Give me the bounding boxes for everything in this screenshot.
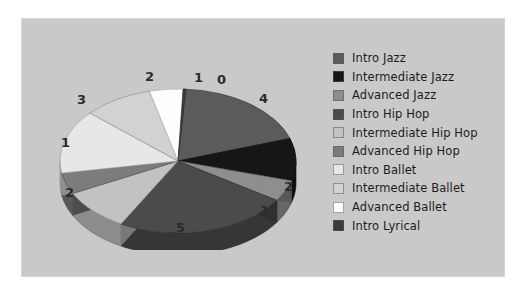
- legend-label: Intro Lyrical: [352, 219, 420, 233]
- legend-swatch-icon: [333, 146, 344, 157]
- legend-label: Advanced Hip Hop: [352, 144, 460, 158]
- pie-data-label: 1: [260, 204, 269, 217]
- pie-data-label: 4: [259, 92, 268, 105]
- legend-label: Advanced Jazz: [352, 88, 436, 102]
- legend-swatch-icon: [333, 71, 344, 82]
- legend-item-intermediate-ballet[interactable]: Intermediate Ballet: [333, 179, 503, 198]
- legend-item-intermediate-jazz[interactable]: Intermediate Jazz: [333, 68, 503, 87]
- legend-swatch-icon: [333, 202, 344, 213]
- pie-data-label: 2: [145, 70, 154, 83]
- legend-swatch-icon: [333, 53, 344, 64]
- pie-data-label: 5: [176, 221, 185, 234]
- legend-item-intro-lyrical[interactable]: Intro Lyrical: [333, 216, 503, 235]
- chart-panel: 0421521321 Intro Jazz Intermediate Jazz …: [21, 18, 505, 277]
- legend-swatch-icon: [333, 164, 344, 175]
- legend-item-advanced-ballet[interactable]: Advanced Ballet: [333, 198, 503, 217]
- legend-item-intro-hip-hop[interactable]: Intro Hip Hop: [333, 105, 503, 124]
- legend-item-advanced-hip-hop[interactable]: Advanced Hip Hop: [333, 142, 503, 161]
- pie-data-label: 2: [65, 186, 74, 199]
- legend-item-intermediate-hip-hop[interactable]: Intermediate Hip Hop: [333, 123, 503, 142]
- legend-swatch-icon: [333, 90, 344, 101]
- legend-item-intro-ballet[interactable]: Intro Ballet: [333, 161, 503, 180]
- pie-data-label: 2: [284, 180, 293, 193]
- pie-data-label: 1: [61, 136, 70, 149]
- legend-swatch-icon: [333, 183, 344, 194]
- legend-label: Intermediate Jazz: [352, 70, 454, 84]
- legend-label: Intro Hip Hop: [352, 107, 429, 121]
- legend-item-advanced-jazz[interactable]: Advanced Jazz: [333, 86, 503, 105]
- pie-data-label: 1: [194, 71, 203, 84]
- legend-label: Advanced Ballet: [352, 200, 447, 214]
- pie-data-label: 3: [77, 93, 86, 106]
- pie-data-label: 0: [217, 73, 226, 86]
- legend-label: Intro Ballet: [352, 163, 416, 177]
- legend-label: Intermediate Ballet: [352, 181, 465, 195]
- legend-item-intro-jazz[interactable]: Intro Jazz: [333, 49, 503, 68]
- screenshot-root: 0421521321 Intro Jazz Intermediate Jazz …: [0, 0, 524, 293]
- legend-swatch-icon: [333, 109, 344, 120]
- legend-swatch-icon: [333, 127, 344, 138]
- legend-label: Intro Jazz: [352, 51, 406, 65]
- legend-label: Intermediate Hip Hop: [352, 126, 478, 140]
- chart-legend: Intro Jazz Intermediate Jazz Advanced Ja…: [333, 49, 503, 235]
- legend-swatch-icon: [333, 220, 344, 231]
